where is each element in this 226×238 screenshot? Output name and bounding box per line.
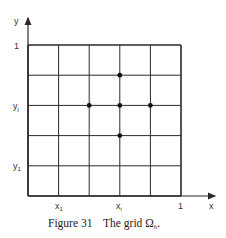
y-tick-y1: y1 — [13, 161, 22, 172]
grid-lines — [28, 45, 181, 196]
y-tick-yj: yj — [13, 101, 19, 112]
x-tick-1: 1 — [178, 201, 183, 211]
grid-point — [117, 103, 122, 108]
x-tick-xi: xi — [116, 201, 122, 212]
y-axis-label: y — [14, 16, 19, 26]
grid-point — [87, 103, 92, 108]
x-axis-label: x — [209, 201, 214, 211]
figure-caption: Figure 31 The grid Ωh. — [48, 217, 160, 231]
grid-point — [148, 103, 153, 108]
x-tick-x1: x1 — [55, 201, 64, 212]
grid-point — [117, 73, 122, 78]
y-tick-1: 1 — [14, 41, 19, 51]
grid-point — [117, 133, 122, 138]
grid-figure: y x 1 yj y1 x1 xi 1 Figure 31 The grid Ω… — [0, 0, 226, 238]
